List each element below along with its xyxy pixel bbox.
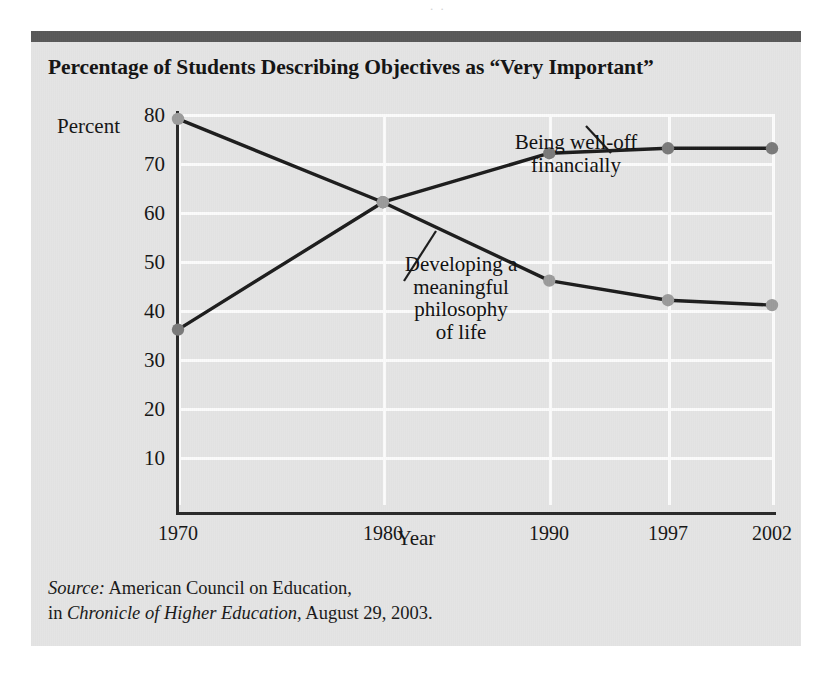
annotation-being-well-off: Being well-off financially (471, 131, 681, 176)
source-label: Source: (48, 578, 105, 598)
annotation-philosophy-line-3: philosophy (361, 298, 561, 321)
page-bleed-text: . . (430, 0, 810, 14)
annotation-philosophy-line-2: meaningful (361, 276, 561, 299)
annotation-philosophy-line-4: of life (361, 321, 561, 344)
data-point-1-2002 (766, 299, 778, 311)
source-organization: American Council on Education, (105, 578, 352, 598)
source-line-2: in Chronicle of Higher Education, August… (48, 601, 768, 626)
source-in-prefix: in (48, 603, 67, 623)
annotation-philosophy-line-1: Developing a (361, 253, 561, 276)
annotation-wealth-line-1: Being well-off (471, 131, 681, 154)
source-publication: Chronicle of Higher Education, (67, 603, 302, 623)
source-date: August 29, 2003. (302, 603, 433, 623)
data-point-0-1970 (172, 323, 184, 335)
figure-panel: Percentage of Students Describing Object… (31, 31, 801, 646)
source-note: Source: American Council on Education, i… (48, 576, 768, 625)
source-line-1: Source: American Council on Education, (48, 576, 768, 601)
data-point-0-2002 (766, 142, 778, 154)
data-point-1-1970 (172, 113, 184, 125)
annotation-wealth-line-2: financially (471, 154, 681, 177)
data-point-1-1980 (377, 196, 389, 208)
data-point-1-1997 (662, 294, 674, 306)
annotation-philosophy-of-life: Developing a meaningful philosophy of li… (361, 253, 561, 344)
